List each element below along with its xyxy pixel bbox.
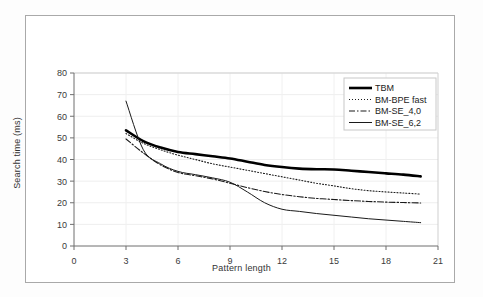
legend-label-3: BM-SE_6,2 (375, 118, 421, 128)
x-axis-title: Pattern length (0, 263, 483, 273)
y-tick-label: 60 (57, 112, 67, 122)
series-line-1 (126, 134, 421, 195)
y-tick-label: 20 (57, 198, 67, 208)
y-tick-label: 70 (57, 90, 67, 100)
y-tick-label: 10 (57, 220, 67, 230)
chart-frame: 01020304050607080036912151821TBMBM-BPE f… (25, 15, 455, 283)
legend-label-2: BM-SE_4,0 (375, 106, 421, 116)
series-line-2 (126, 139, 421, 203)
figure-canvas: 01020304050607080036912151821TBMBM-BPE f… (0, 0, 483, 297)
legend-label-1: BM-BPE fast (375, 95, 427, 105)
y-tick-label: 30 (57, 177, 67, 187)
y-axis-title: Search time (ms) (12, 88, 22, 218)
y-tick-label: 0 (62, 241, 67, 251)
line-chart: 01020304050607080036912151821TBMBM-BPE f… (26, 16, 453, 281)
y-tick-label: 40 (57, 155, 67, 165)
legend-label-0: TBM (375, 83, 394, 93)
y-tick-label: 80 (57, 68, 67, 78)
y-tick-label: 50 (57, 133, 67, 143)
